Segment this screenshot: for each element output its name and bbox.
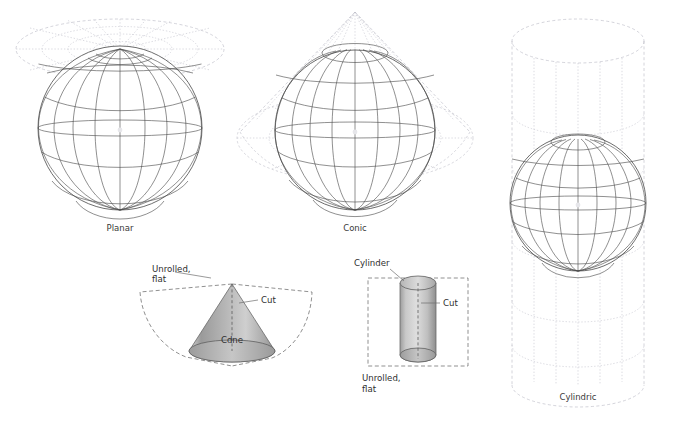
cone-cut-label: Cut xyxy=(261,295,276,305)
panel-conic: Conic xyxy=(237,12,473,233)
cylinder-cut-label: Cut xyxy=(443,298,458,308)
cylinder-unrolled-label-line1: Unrolled, xyxy=(362,373,401,383)
panel-cylindric: Cylindric xyxy=(510,19,646,407)
projection-diagram: Planar xyxy=(0,0,673,421)
cylinder-label-leader xyxy=(390,269,404,281)
cylindric-globe xyxy=(510,134,646,278)
cone-body-label: Cdne xyxy=(221,335,243,345)
caption-conic: Conic xyxy=(343,223,367,233)
cone-unrolled-label-line2: flat xyxy=(152,274,167,284)
cylinder-unrolled-label-line2: flat xyxy=(362,384,377,394)
planar-globe xyxy=(38,46,202,219)
developable-cone: Unrolled, flat Cut Cdne xyxy=(140,264,312,366)
cylinder-body-label: Cylinder xyxy=(354,258,390,268)
developable-cylinder: Cylinder Cut Unrolled, flat xyxy=(354,258,468,394)
conic-globe xyxy=(275,44,435,217)
caption-cylindric: Cylindric xyxy=(559,392,596,402)
cone-unrolled-label-line1: Unrolled, xyxy=(152,264,191,274)
panel-planar: Planar xyxy=(16,19,224,233)
caption-planar: Planar xyxy=(107,223,134,233)
